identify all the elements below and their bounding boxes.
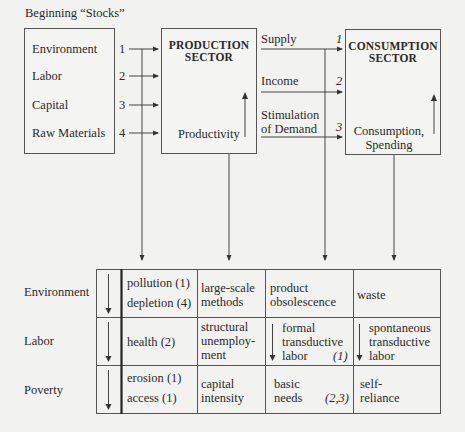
- table-cell: erosion (1) access (1): [127, 371, 182, 405]
- table-cell-note: (2,3): [325, 391, 349, 405]
- table-cell: capital intensity: [201, 377, 244, 405]
- impact-table-grid: [0, 0, 465, 432]
- table-cell: large-scale methods: [201, 281, 255, 309]
- table-cell: waste: [357, 288, 385, 302]
- table-cell: structural unemploy- ment: [201, 320, 255, 362]
- table-cell: basic needs: [274, 377, 302, 405]
- table-cell: pollution (1) depletion (4): [127, 276, 191, 310]
- table-cell: product obsolescence: [270, 281, 336, 309]
- table-cell-note: (1): [333, 349, 348, 363]
- table-cell: spontaneous transductive labor: [369, 321, 431, 363]
- table-cell: health (2): [127, 335, 175, 349]
- table-cell: self- reliance: [360, 377, 400, 405]
